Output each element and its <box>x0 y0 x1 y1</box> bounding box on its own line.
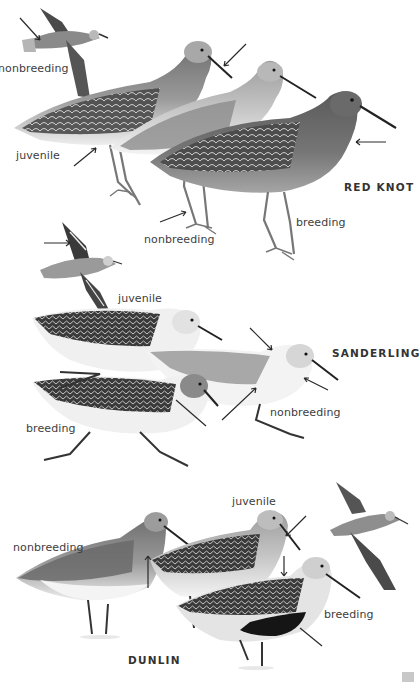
dunlin-juvenile-label: juvenile <box>232 495 276 508</box>
dunlin-flying <box>330 482 408 590</box>
red-knot-flying <box>22 8 108 98</box>
sanderling-breeding-label: breeding <box>26 422 76 435</box>
dunlin-nonbreeding-label: nonbreeding <box>13 541 84 554</box>
sanderling-breeding <box>32 372 218 466</box>
sanderling-flying <box>40 222 122 312</box>
red-knot-nonbreeding-flying-label: nonbreeding <box>0 62 69 75</box>
red-knot-nonbreeding-label: nonbreeding <box>144 233 215 246</box>
species-title-red-knot: RED KNOT <box>344 181 414 193</box>
species-title-sanderling: SANDERLING <box>332 347 420 359</box>
sanderling-juvenile-label: juvenile <box>118 292 162 305</box>
species-title-dunlin: DUNLIN <box>128 654 181 666</box>
dunlin-group <box>16 482 408 670</box>
dunlin-breeding-label: breeding <box>324 608 374 621</box>
sanderling-nonbreeding-label: nonbreeding <box>270 406 341 419</box>
corner-mark <box>402 672 414 682</box>
red-knot-juvenile-label: juvenile <box>16 149 60 162</box>
red-knot-breeding-label: breeding <box>296 216 346 229</box>
